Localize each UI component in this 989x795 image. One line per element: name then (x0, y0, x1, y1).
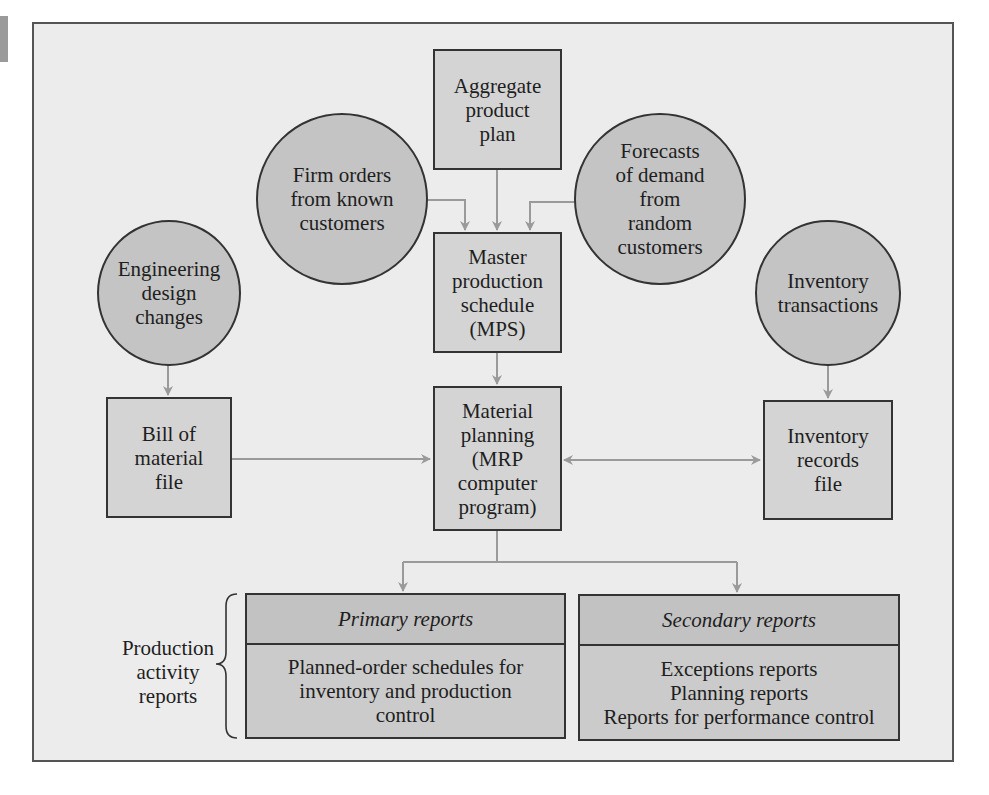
primary-reports-body: Planned-order schedules for inventory an… (247, 645, 564, 737)
engineering-changes-label: Engineering design changes (118, 257, 221, 329)
firm-orders-label: Firm orders from known customers (290, 163, 393, 235)
page-edge-mark (0, 16, 8, 62)
primary-reports-box: Primary reports Planned-order schedules … (245, 593, 566, 739)
material-planning-label: Material planning (MRP computer program) (458, 399, 537, 519)
production-activity-reports-label: Production activity reports (118, 636, 218, 708)
inventory-transactions-label: Inventory transactions (778, 269, 878, 317)
aggregate-product-plan-box: Aggregate product plan (433, 49, 562, 170)
aggregate-product-plan-label: Aggregate product plan (454, 74, 541, 146)
mps-label: Master production schedule (MPS) (452, 245, 543, 341)
forecasts-circle: Forecasts of demand from random customer… (574, 113, 746, 285)
master-production-schedule-box: Master production schedule (MPS) (433, 232, 562, 353)
bill-of-material-label: Bill of material file (135, 422, 204, 494)
secondary-reports-body: Exceptions reports Planning reports Repo… (580, 646, 898, 739)
engineering-design-changes-circle: Engineering design changes (97, 220, 241, 366)
secondary-reports-box: Secondary reports Exceptions reports Pla… (578, 594, 900, 741)
inventory-transactions-circle: Inventory transactions (755, 220, 901, 366)
inventory-records-label: Inventory records file (787, 424, 869, 496)
inventory-records-file-box: Inventory records file (763, 400, 893, 520)
secondary-reports-title: Secondary reports (580, 596, 898, 646)
firm-orders-circle: Firm orders from known customers (256, 113, 428, 285)
primary-reports-title: Primary reports (247, 595, 564, 645)
material-planning-box: Material planning (MRP computer program) (433, 386, 562, 531)
forecasts-label: Forecasts of demand from random customer… (615, 139, 704, 259)
bill-of-material-file-box: Bill of material file (106, 397, 232, 518)
